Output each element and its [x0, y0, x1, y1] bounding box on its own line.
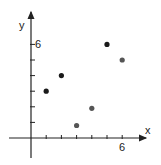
- data-point: [89, 106, 94, 111]
- data-point: [74, 123, 79, 128]
- x-axis-label: x: [145, 124, 151, 136]
- y-axis-label: y: [19, 19, 25, 31]
- x-tick-label-6: 6: [119, 141, 125, 153]
- scatter-chart: x y 6 6: [0, 0, 161, 165]
- data-point: [104, 42, 109, 47]
- data-points: [44, 42, 125, 128]
- data-point: [120, 57, 125, 62]
- data-point: [44, 89, 49, 94]
- data-point: [59, 73, 64, 78]
- y-tick-label-6: 6: [35, 38, 41, 50]
